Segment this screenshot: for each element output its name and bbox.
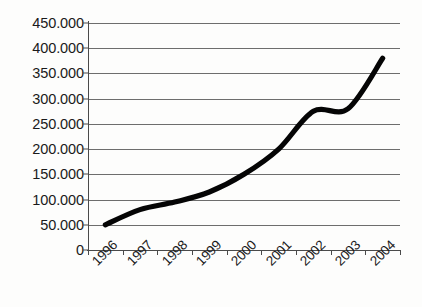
chart-screenshot: 450.000400.000350.000300.000250.000200.0… [0, 0, 422, 307]
x-tick-mark [157, 250, 158, 255]
x-tick-mark [227, 250, 228, 255]
gridline [88, 149, 400, 150]
y-tick-mark [83, 174, 89, 175]
y-tick-label: 300.000 [0, 91, 84, 107]
y-axis-line [88, 21, 89, 252]
y-tick-label: 250.000 [0, 116, 84, 132]
gridline [88, 200, 400, 201]
y-tick-mark [83, 98, 89, 99]
gridline [88, 73, 400, 74]
y-axis-labels: 450.000400.000350.000300.000250.000200.0… [0, 0, 84, 307]
gridline [88, 174, 400, 175]
plot-area [88, 23, 400, 250]
y-tick-label: 400.000 [0, 40, 84, 56]
gridline [88, 225, 400, 226]
gridline [88, 99, 400, 100]
y-tick-mark [83, 73, 89, 74]
y-tick-mark [83, 149, 89, 150]
y-tick-label: 450.000 [0, 15, 84, 31]
x-tick-mark [365, 250, 366, 255]
x-tick-mark [123, 250, 124, 255]
y-tick-label: 150.000 [0, 166, 84, 182]
x-tick-mark [331, 250, 332, 255]
y-tick-label: 100.000 [0, 192, 84, 208]
y-tick-label: 50.000 [0, 217, 84, 233]
x-tick-mark [192, 250, 193, 255]
x-tick-mark [296, 250, 297, 255]
gridline [88, 23, 400, 24]
y-tick-label: 0 [0, 242, 84, 258]
y-tick-mark [83, 23, 89, 24]
y-tick-mark [83, 48, 89, 49]
y-tick-label: 350.000 [0, 65, 84, 81]
x-tick-mark [400, 250, 401, 255]
gridline [88, 48, 400, 49]
y-tick-mark [83, 123, 89, 124]
y-tick-label: 200.000 [0, 141, 84, 157]
y-tick-mark [83, 199, 89, 200]
y-tick-mark [83, 250, 89, 251]
x-tick-mark [261, 250, 262, 255]
gridline [88, 124, 400, 125]
x-tick-mark [88, 250, 89, 255]
y-tick-mark [83, 224, 89, 225]
